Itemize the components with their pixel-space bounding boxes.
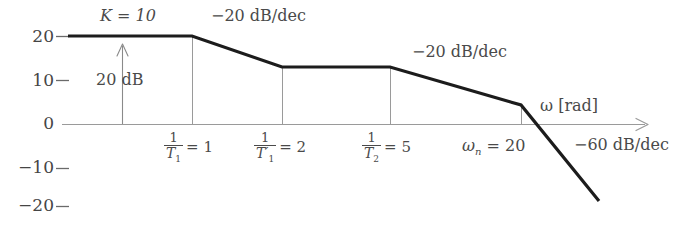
breakpoint-label-w2: 1 T′1 = 2 bbox=[254, 131, 306, 164]
bode-plot-figure: 20 10 0 −10 −20 K = 10 20 dB −20 dB/dec … bbox=[0, 0, 689, 226]
breakpoint-value-w5: = 5 bbox=[384, 138, 411, 156]
magnitude-asymptote-curve bbox=[68, 36, 599, 201]
slope-label-third: −60 dB/dec bbox=[574, 137, 669, 153]
fraction-w5: 1 T2 bbox=[362, 131, 381, 164]
breakpoint-label-wn: ωn = 20 bbox=[462, 138, 525, 157]
y-tick-label-neg10: −10 bbox=[4, 159, 54, 176]
breakpoint-label-w5: 1 T2 = 5 bbox=[362, 131, 411, 164]
breakpoint-value-w2: = 2 bbox=[279, 138, 306, 156]
breakpoint-label-w1: 1 T1 = 1 bbox=[164, 131, 213, 164]
y-axis-ticks bbox=[56, 37, 69, 207]
y-tick-label-neg20: −20 bbox=[4, 197, 54, 214]
gain-annotation: K = 10 bbox=[100, 8, 156, 24]
y-tick-label-0: 0 bbox=[16, 115, 54, 132]
slope-label-second: −20 dB/dec bbox=[412, 44, 507, 60]
gain-arrow-label: 20 dB bbox=[96, 72, 143, 88]
y-tick-label-10: 10 bbox=[16, 72, 54, 89]
x-axis bbox=[62, 119, 648, 131]
fraction-w2: 1 T′1 bbox=[254, 131, 276, 164]
breakpoint-value-wn: = 20 bbox=[487, 136, 526, 155]
slope-label-first: −20 dB/dec bbox=[211, 8, 306, 24]
x-axis-label: ω [rad] bbox=[540, 98, 598, 114]
fraction-w1: 1 T1 bbox=[164, 131, 183, 164]
y-tick-label-20: 20 bbox=[16, 28, 54, 45]
breakpoint-value-w1: = 1 bbox=[186, 138, 213, 156]
